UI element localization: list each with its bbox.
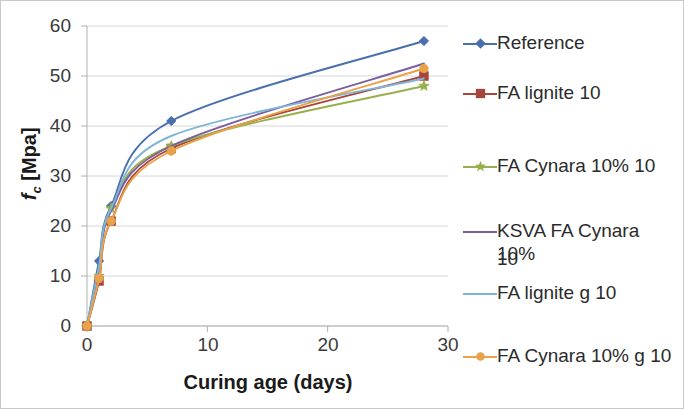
legend-diamond-icon [475, 38, 485, 48]
legend-marker-circle-icon-6 [474, 350, 487, 363]
series-1 [83, 72, 428, 330]
legend-line-swatch-5 [463, 293, 497, 295]
legend-label-0: Reference [497, 31, 585, 54]
series-line-3 [87, 64, 424, 327]
marker-star-2-4 [419, 81, 429, 91]
series-line-1 [87, 76, 424, 326]
legend-line-swatch-3 [463, 231, 497, 233]
marker-circle-5-2 [107, 217, 115, 225]
series-line-5 [87, 69, 424, 327]
legend-label-1: FA lignite 10 [497, 81, 601, 104]
chart-svg [1, 1, 461, 409]
marker-diamond-0-4 [419, 36, 428, 45]
chart-legend: ReferenceFA lignite 10FA Cynara 10% 10KS… [463, 19, 679, 379]
chart-figure: 60 50 40 30 20 10 0 0 10 20 30 fc [Mpa] … [0, 0, 684, 409]
legend-label-5: FA lignite g 10 [497, 281, 616, 304]
legend-marker-square-icon-1 [474, 87, 487, 100]
legend-circle-icon [476, 352, 485, 361]
series-3 [87, 64, 424, 327]
legend-key-5 [463, 283, 497, 305]
legend-item-0[interactable]: Reference [463, 31, 679, 55]
legend-label-6: FA Cynara 10% g 10 [497, 344, 671, 367]
legend-item-1[interactable]: FA lignite 10 [463, 81, 679, 105]
chart-plot-region: 60 50 40 30 20 10 0 0 10 20 30 fc [Mpa] … [1, 1, 461, 409]
legend-key-2 [463, 156, 497, 178]
marker-circle-5-3 [167, 147, 175, 155]
marker-circle-5-0 [83, 322, 91, 330]
legend-key-1 [463, 83, 497, 105]
legend-label-4: 10 [497, 247, 518, 270]
legend-star-icon [475, 161, 486, 171]
series-0 [82, 36, 428, 330]
legend-label-2: FA Cynara 10% 10 [497, 154, 655, 177]
series-5 [83, 64, 428, 330]
legend-item-5[interactable]: FA lignite g 10 [463, 281, 679, 305]
series-2 [82, 81, 429, 331]
marker-circle-5-4 [420, 64, 428, 72]
legend-key-3 [463, 221, 497, 243]
legend-marker-diamond-icon-0 [474, 37, 487, 50]
legend-item-6[interactable]: FA Cynara 10% g 10 [463, 344, 679, 368]
series-line-2 [87, 86, 424, 326]
marker-diamond-0-3 [167, 116, 176, 125]
legend-square-icon [476, 89, 485, 98]
legend-key-6 [463, 346, 497, 368]
legend-item-2[interactable]: FA Cynara 10% 10 [463, 154, 679, 178]
legend-marker-star-icon-2 [474, 160, 487, 173]
legend-key-0 [463, 33, 497, 55]
legend-item-4[interactable]: 10 [463, 247, 679, 270]
marker-circle-5-1 [95, 274, 103, 282]
